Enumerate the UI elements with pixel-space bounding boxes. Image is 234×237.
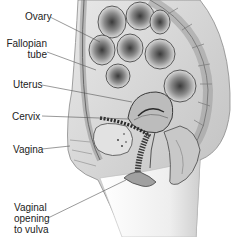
label-vaginal-opening: Vaginal opening to vulva <box>14 202 50 235</box>
label-vagina: Vagina <box>13 144 43 155</box>
label-ovary: Ovary <box>25 11 52 22</box>
anatomy-diagram: Ovary Fallopian tube Uterus Cervix Vagin… <box>0 0 234 237</box>
label-uterus: Uterus <box>13 79 42 90</box>
label-fallopian-tube: Fallopian tube <box>5 38 47 60</box>
label-cervix: Cervix <box>12 111 40 122</box>
bladder <box>93 123 132 155</box>
